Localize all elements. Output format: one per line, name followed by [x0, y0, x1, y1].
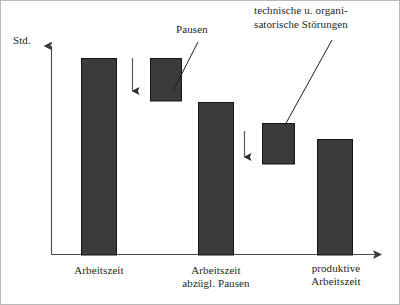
leader-line-stoerungen: [285, 40, 332, 125]
bar-arbeitszeit: [82, 59, 117, 256]
bar-chart-figure: Std. Pausen technische u. organi- satori…: [0, 0, 400, 305]
bar-technische-organisatorische-stoerungen: [263, 124, 295, 165]
bar-produktive-arbeitszeit: [318, 140, 353, 256]
callout-label-pausen: Pausen: [176, 23, 208, 36]
chart-canvas: [1, 1, 400, 305]
x-axis-category-label-produktive-arbeitszeit: produktive Arbeitszeit: [289, 262, 383, 288]
bar-arbeitszeit-abzuegl-pausen: [199, 103, 234, 256]
bar-pausen: [151, 59, 182, 102]
x-axis-category-label-arbeitszeit: Arbeitszeit: [53, 264, 145, 277]
callout-label-technische-organisatorische-stoerungen: technische u. organi- satorische Störung…: [254, 3, 348, 31]
x-axis-category-label-arbeitszeit-abzuegl-pausen: Arbeitszeit abzügl. Pausen: [169, 264, 263, 290]
y-axis-title: Std.: [13, 34, 31, 47]
